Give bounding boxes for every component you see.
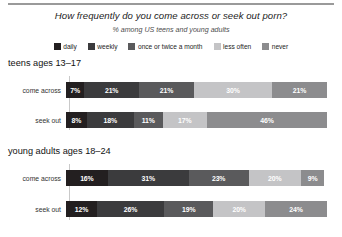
- bar-segment-never: 21%: [272, 82, 327, 98]
- chart-subtitle: % among US teens and young adults: [0, 26, 342, 34]
- group-title: teens ages 13–17: [0, 58, 342, 68]
- bar-segment-value: 20%: [268, 175, 282, 182]
- bar-segment-value: 31%: [141, 175, 155, 182]
- bar-segment-daily: 8%: [66, 112, 87, 128]
- bar-row: seek out 12%26%19%20%24%: [0, 201, 342, 217]
- bar-segment-value: 20%: [232, 206, 246, 213]
- bar-segment-value: 23%: [212, 175, 226, 182]
- bar-segment-daily: 16%: [66, 170, 108, 186]
- bar-segment-value: 11%: [142, 117, 155, 124]
- bar-segment-never: 46%: [207, 112, 327, 128]
- legend-swatch-icon: [262, 43, 269, 50]
- bar-track: 16%31%23%20%9%: [66, 170, 327, 186]
- legend-swatch-icon: [88, 43, 95, 50]
- bar-segment-value: 26%: [124, 206, 138, 213]
- legend-item-weekly: weekly: [88, 43, 118, 50]
- bar-segment-value: 17%: [178, 117, 192, 124]
- legend-label: weekly: [97, 43, 117, 50]
- bar-segment-value: 16%: [80, 175, 94, 182]
- bar-segment-value: 12%: [75, 206, 89, 213]
- legend-swatch-icon: [214, 43, 221, 50]
- bar-segment-value: 8%: [72, 117, 82, 124]
- bar-segment-value: 30%: [226, 87, 240, 94]
- bar-segment-value: 21%: [293, 87, 307, 94]
- bar-segment-once-or-twice-a-month: 21%: [139, 82, 194, 98]
- bar-segment-daily: 12%: [66, 201, 97, 217]
- legend-label: once or twice a month: [138, 43, 203, 50]
- bar-row-label: come across: [0, 87, 66, 94]
- bar-row: come across 7%21%21%30%21%: [0, 82, 342, 98]
- bar-segment-once-or-twice-a-month: 11%: [134, 112, 163, 128]
- bar-segment-value: 46%: [260, 117, 274, 124]
- chart-title: How frequently do you come across or see…: [0, 10, 342, 21]
- legend-label: never: [272, 43, 289, 50]
- bar-track: 8%18%11%17%46%: [66, 112, 327, 128]
- legend-swatch-icon: [54, 43, 61, 50]
- bar-segment-value: 21%: [160, 87, 174, 94]
- legend-item-never: never: [262, 43, 288, 50]
- bar-row-label: come across: [0, 175, 66, 182]
- group-young-adults: young adults ages 18–24: [0, 146, 342, 156]
- bar-row-label: seek out: [0, 117, 66, 124]
- chart-legend: daily weekly once or twice a month less …: [0, 43, 342, 50]
- bar-segment-value: 7%: [70, 87, 80, 94]
- legend-swatch-icon: [128, 43, 135, 50]
- bar-segment-once-or-twice-a-month: 19%: [164, 201, 213, 217]
- bar-segment-weekly: 21%: [84, 82, 139, 98]
- legend-item-daily: daily: [54, 43, 77, 50]
- bar-segment-less-often: 30%: [194, 82, 272, 98]
- group-teens: teens ages 13–17: [0, 58, 342, 68]
- bar-segment-weekly: 18%: [87, 112, 134, 128]
- bar-segment-less-often: 17%: [163, 112, 207, 128]
- bar-segment-weekly: 26%: [97, 201, 164, 217]
- bar-row-label: seek out: [0, 206, 66, 213]
- bar-segment-value: 18%: [104, 117, 118, 124]
- chart-figure: How frequently do you come across or see…: [0, 0, 342, 237]
- top-divider: [8, 3, 334, 5]
- bar-segment-less-often: 20%: [213, 201, 265, 217]
- bar-segment-once-or-twice-a-month: 23%: [189, 170, 249, 186]
- bar-segment-value: 9%: [308, 175, 318, 182]
- group-title: young adults ages 18–24: [0, 146, 342, 156]
- bar-segment-value: 21%: [105, 87, 119, 94]
- bar-segment-never: 9%: [301, 170, 324, 186]
- bar-row: seek out 8%18%11%17%46%: [0, 112, 342, 128]
- legend-label: daily: [63, 43, 77, 50]
- bar-segment-less-often: 20%: [249, 170, 301, 186]
- legend-item-less-often: less often: [214, 43, 252, 50]
- bar-track: 12%26%19%20%24%: [66, 201, 327, 217]
- bar-segment-value: 19%: [182, 206, 196, 213]
- legend-label: less often: [223, 43, 251, 50]
- legend-item-once-or-twice-a-month: once or twice a month: [128, 43, 202, 50]
- bar-segment-value: 24%: [289, 206, 303, 213]
- bar-segment-daily: 7%: [66, 82, 84, 98]
- bar-row: come across 16%31%23%20%9%: [0, 170, 342, 186]
- bar-segment-weekly: 31%: [108, 170, 189, 186]
- bar-track: 7%21%21%30%21%: [66, 82, 327, 98]
- bar-segment-never: 24%: [265, 201, 327, 217]
